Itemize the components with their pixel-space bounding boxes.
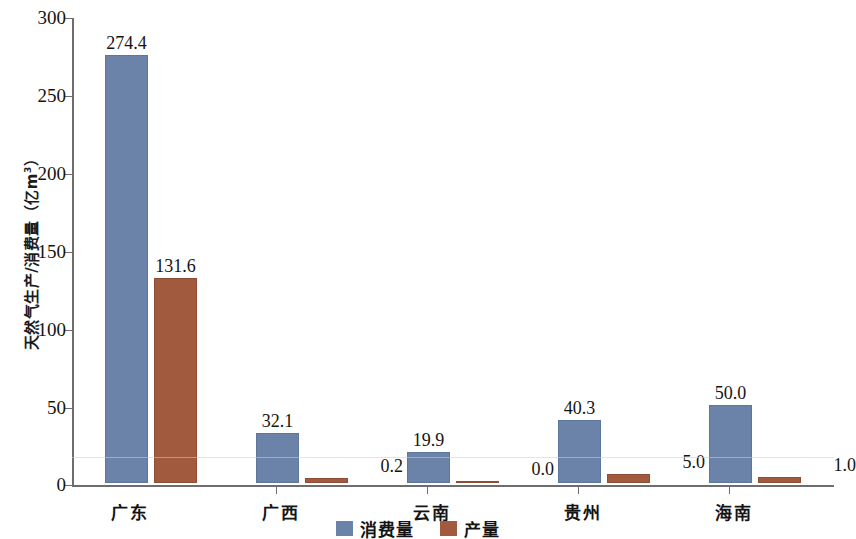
legend-item-consumption: 消费量 xyxy=(336,516,414,539)
bar-consumption-3: 40.3 xyxy=(558,420,601,483)
y-tick-label-150: 150 xyxy=(38,242,67,262)
bar-value-production-2: 0.0 xyxy=(532,459,555,479)
legend-swatch-production-icon xyxy=(440,521,457,536)
plot-area: 300 250 200 150 100 50 0 xyxy=(72,18,834,485)
legend-label-production: 产量 xyxy=(464,516,500,539)
x-tick-1 xyxy=(276,485,277,494)
y-tick-label-200: 200 xyxy=(38,164,67,184)
bar-consumption-1: 32.1 xyxy=(256,433,299,483)
bar-value-production-1: 0.2 xyxy=(381,456,404,476)
legend-swatch-consumption-icon xyxy=(336,521,353,536)
bar-value-consumption-3: 40.3 xyxy=(564,398,596,418)
legend-label-consumption: 消费量 xyxy=(360,516,414,539)
bar-production-4: 1.0 xyxy=(758,477,801,483)
y-axis-title-exponent: 3 xyxy=(23,166,33,173)
x-tick-3 xyxy=(578,485,579,494)
y-tick-label-50: 50 xyxy=(47,398,66,418)
x-tick-2 xyxy=(427,485,428,494)
bar-value-production-3: 5.0 xyxy=(683,452,706,472)
x-tick-4 xyxy=(729,485,730,494)
bar-value-consumption-1: 32.1 xyxy=(262,411,294,431)
bar-value-consumption-4: 50.0 xyxy=(715,383,747,403)
bar-production-0: 131.6 xyxy=(154,278,197,483)
x-axis-line xyxy=(72,485,834,487)
bar-consumption-0: 274.4 xyxy=(105,55,148,483)
y-tick-label-100: 100 xyxy=(38,320,67,340)
bar-value-consumption-2: 19.9 xyxy=(413,430,445,450)
legend-item-production: 产量 xyxy=(440,516,500,539)
bar-production-2: 0.0 xyxy=(456,481,499,483)
y-tick-label-0: 0 xyxy=(57,475,67,495)
chart-legend: 消费量 产量 xyxy=(0,516,836,539)
y-axis-line xyxy=(72,18,74,486)
y-tick-label-250: 250 xyxy=(38,86,67,106)
bar-value-production-4: 1.0 xyxy=(834,455,856,475)
bar-value-production-0: 131.6 xyxy=(155,256,196,276)
bar-value-consumption-0: 274.4 xyxy=(106,33,147,53)
bar-consumption-2: 19.9 xyxy=(407,452,450,483)
y-tick-label-300: 300 xyxy=(38,8,67,28)
bar-production-3: 5.0 xyxy=(607,474,650,483)
bar-production-1: 0.2 xyxy=(305,478,348,483)
bar-consumption-4: 50.0 xyxy=(709,405,752,483)
